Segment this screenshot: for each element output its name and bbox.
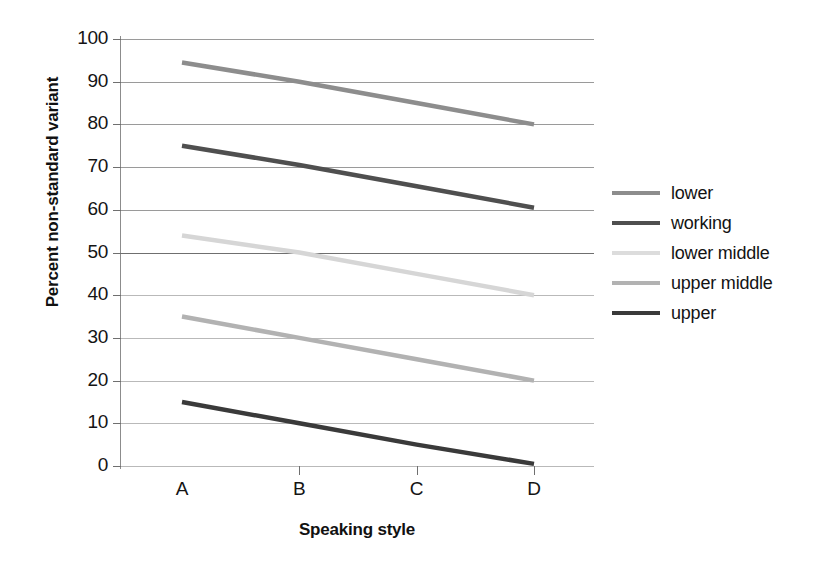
y-tick-mark-80 bbox=[113, 124, 121, 125]
legend-swatch-icon bbox=[612, 311, 660, 315]
y-tick-label-0: 0 bbox=[54, 454, 108, 476]
legend-swatch-icon bbox=[612, 191, 660, 195]
y-tick-mark-70 bbox=[113, 167, 121, 168]
x-tick-mark-D bbox=[534, 466, 535, 475]
gridline-40 bbox=[120, 295, 594, 296]
gridline-80 bbox=[120, 124, 594, 125]
y-tick-label-90: 90 bbox=[54, 70, 108, 92]
legend-label: upper bbox=[671, 303, 716, 324]
gridline-20 bbox=[120, 381, 594, 382]
y-tick-label-10: 10 bbox=[54, 411, 108, 433]
y-tick-label-60: 60 bbox=[54, 198, 108, 220]
x-axis-title: Speaking style bbox=[120, 520, 594, 540]
gridline-50 bbox=[120, 253, 594, 254]
y-tick-mark-90 bbox=[113, 82, 121, 83]
gridline-30 bbox=[120, 338, 594, 339]
legend-item-lower-middle: lower middle bbox=[612, 238, 817, 268]
y-tick-label-30: 30 bbox=[54, 326, 108, 348]
y-axis-ticks: 0102030405060708090100 bbox=[0, 39, 108, 466]
y-tick-mark-100 bbox=[113, 39, 121, 40]
legend-swatch-icon bbox=[612, 221, 660, 225]
chart-figure: Percent non-standard variant 01020304050… bbox=[0, 0, 825, 569]
gridline-0 bbox=[120, 466, 594, 467]
legend-item-upper-middle: upper middle bbox=[612, 268, 817, 298]
gridline-100 bbox=[120, 39, 594, 40]
legend-item-upper: upper bbox=[612, 298, 817, 328]
legend-item-working: working bbox=[612, 208, 817, 238]
y-tick-mark-40 bbox=[113, 295, 121, 296]
x-tick-label-B: B bbox=[269, 478, 329, 500]
legend-swatch-icon bbox=[612, 281, 660, 285]
gridline-70 bbox=[120, 167, 594, 168]
x-tick-mark-C bbox=[417, 466, 418, 475]
y-tick-label-50: 50 bbox=[54, 241, 108, 263]
y-tick-mark-10 bbox=[113, 423, 121, 424]
legend-swatch-icon bbox=[612, 251, 660, 255]
y-tick-mark-20 bbox=[113, 381, 121, 382]
gridline-90 bbox=[120, 82, 594, 83]
y-tick-mark-0 bbox=[113, 466, 121, 467]
y-tick-label-20: 20 bbox=[54, 369, 108, 391]
y-tick-label-40: 40 bbox=[54, 283, 108, 305]
x-tick-mark-B bbox=[299, 466, 300, 475]
x-tick-label-D: D bbox=[504, 478, 564, 500]
gridline-60 bbox=[120, 210, 594, 211]
y-tick-label-100: 100 bbox=[54, 27, 108, 49]
y-tick-label-70: 70 bbox=[54, 155, 108, 177]
legend-item-lower: lower bbox=[612, 178, 817, 208]
x-tick-label-C: C bbox=[387, 478, 447, 500]
x-tick-label-A: A bbox=[152, 478, 212, 500]
y-tick-mark-30 bbox=[113, 338, 121, 339]
gridline-10 bbox=[120, 423, 594, 424]
y-tick-mark-50 bbox=[113, 253, 121, 254]
legend-label: lower middle bbox=[671, 243, 770, 264]
chart-legend: lowerworkinglower middleupper middleuppe… bbox=[612, 178, 817, 328]
legend-label: working bbox=[671, 213, 732, 234]
legend-label: lower bbox=[671, 183, 713, 204]
plot-area bbox=[120, 39, 594, 466]
y-tick-label-80: 80 bbox=[54, 112, 108, 134]
y-tick-mark-60 bbox=[113, 210, 121, 211]
legend-label: upper middle bbox=[671, 273, 773, 294]
